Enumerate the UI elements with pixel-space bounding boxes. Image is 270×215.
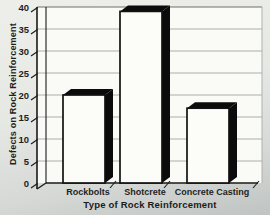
y-tick-label: 15 <box>18 112 29 123</box>
y-tick-label: 40 <box>18 2 29 13</box>
x-axis-title: Type of Rock Reinforcement <box>0 199 270 210</box>
x-category-label: Concrete Casting <box>175 187 250 197</box>
y-tick-label: 35 <box>18 24 29 35</box>
bar-rockbolts <box>63 95 105 183</box>
y-tick-label: 10 <box>18 134 29 145</box>
y-tick-label: 25 <box>18 68 29 79</box>
bar-top-face-rockbolts <box>63 89 113 95</box>
chart-plot: 0510152025303540RockboltsShotcreteConcre… <box>0 0 270 215</box>
y-tick-label: 30 <box>18 46 29 57</box>
bar-side-face-shotcrete <box>162 5 170 183</box>
x-category-label: Shotcrete <box>124 187 166 197</box>
bar-top-face-shotcrete <box>120 5 170 11</box>
bar-concrete-casting <box>187 108 229 183</box>
bar-side-face-rockbolts <box>105 89 113 183</box>
y-tick-label: 20 <box>18 90 29 101</box>
bar-side-face-concrete-casting <box>229 102 237 183</box>
scanned-bar-chart-figure: Defects on Rock Reinforcement 0510152025… <box>0 0 270 215</box>
y-tick-label: 5 <box>24 156 30 167</box>
bar-top-face-concrete-casting <box>187 102 237 108</box>
bar-shotcrete <box>120 11 162 183</box>
y-tick-label: 0 <box>24 178 29 189</box>
axis-depth-diagonal <box>37 183 46 189</box>
x-category-label: Rockbolts <box>66 187 110 197</box>
